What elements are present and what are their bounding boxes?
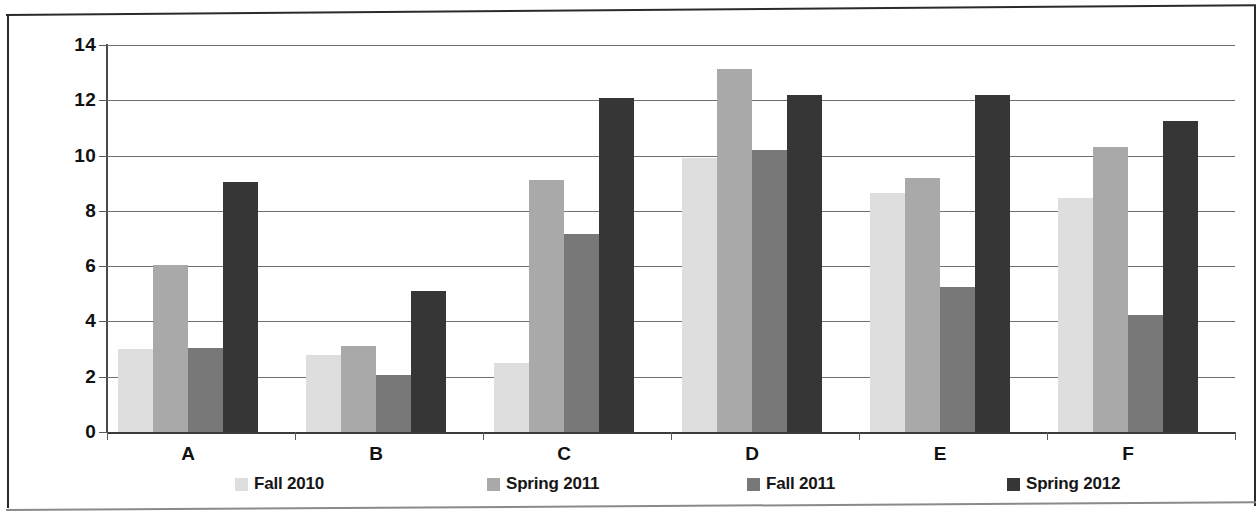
plot-area <box>107 45 1235 432</box>
bar-group-D <box>680 45 825 432</box>
bar-D-fall-2011[interactable] <box>752 150 787 432</box>
x-axis-line <box>107 432 1235 434</box>
bar-F-spring-2012[interactable] <box>1163 121 1198 432</box>
y-tick-label-14: 14 <box>36 34 96 56</box>
bar-B-fall-2011[interactable] <box>376 375 411 432</box>
chart-legend: Fall 2010Spring 2011Fall 2011Spring 2012 <box>107 474 1235 498</box>
legend-item-fall-2010[interactable]: Fall 2010 <box>235 474 324 494</box>
legend-swatch-fall-2010 <box>235 478 248 491</box>
bar-group-A <box>116 45 261 432</box>
bar-E-fall-2010[interactable] <box>870 193 905 432</box>
legend-label-spring-2011: Spring 2011 <box>506 474 599 494</box>
bar-group-E <box>868 45 1013 432</box>
bar-E-spring-2011[interactable] <box>905 178 940 432</box>
x-tick-label-B: B <box>336 443 416 465</box>
legend-swatch-spring-2011 <box>487 478 500 491</box>
bar-C-spring-2011[interactable] <box>529 180 564 432</box>
y-tick-mark-8 <box>99 211 107 212</box>
legend-label-fall-2011: Fall 2011 <box>766 474 835 494</box>
x-tick-label-E: E <box>900 443 980 465</box>
bar-group-C <box>492 45 637 432</box>
x-tick-mark-4 <box>859 432 860 440</box>
legend-item-spring-2011[interactable]: Spring 2011 <box>487 474 599 494</box>
y-tick-label-2: 2 <box>36 366 96 388</box>
x-tick-mark-1 <box>295 432 296 440</box>
bars-layer <box>107 45 1235 432</box>
x-tick-label-A: A <box>148 443 228 465</box>
page-frame-left-border <box>7 16 9 508</box>
bar-A-fall-2011[interactable] <box>188 348 223 432</box>
bar-chart-figure: 02468101214 ABCDEF Fall 2010Spring 2011F… <box>0 0 1256 513</box>
bar-D-spring-2011[interactable] <box>717 69 752 433</box>
bar-B-fall-2010[interactable] <box>306 355 341 432</box>
x-tick-mark-3 <box>671 432 672 440</box>
bar-C-spring-2012[interactable] <box>599 98 634 432</box>
legend-item-spring-2012[interactable]: Spring 2012 <box>1007 474 1120 494</box>
y-tick-label-10: 10 <box>36 145 96 167</box>
legend-swatch-spring-2012 <box>1007 478 1020 491</box>
x-tick-mark-0 <box>107 432 108 440</box>
bar-F-fall-2010[interactable] <box>1058 198 1093 432</box>
bar-A-spring-2011[interactable] <box>153 265 188 432</box>
legend-swatch-fall-2011 <box>747 478 760 491</box>
bar-group-B <box>304 45 449 432</box>
bar-D-spring-2012[interactable] <box>787 95 822 432</box>
bar-A-spring-2012[interactable] <box>223 182 258 432</box>
x-tick-label-D: D <box>712 443 792 465</box>
page-frame-top-border <box>6 4 1256 16</box>
bar-A-fall-2010[interactable] <box>118 349 153 432</box>
bar-E-spring-2012[interactable] <box>975 95 1010 432</box>
bar-E-fall-2011[interactable] <box>940 287 975 432</box>
page-frame-bottom-border <box>6 501 1256 511</box>
x-tick-mark-end <box>1235 432 1236 440</box>
bar-B-spring-2011[interactable] <box>341 346 376 432</box>
x-tick-mark-5 <box>1047 432 1048 440</box>
y-tick-label-6: 6 <box>36 255 96 277</box>
y-tick-mark-14 <box>99 45 107 46</box>
legend-label-fall-2010: Fall 2010 <box>254 474 324 494</box>
y-tick-mark-12 <box>99 100 107 101</box>
bar-B-spring-2012[interactable] <box>411 291 446 432</box>
y-tick-mark-2 <box>99 377 107 378</box>
x-axis-tick-labels: ABCDEF <box>107 443 1235 469</box>
x-tick-label-C: C <box>524 443 604 465</box>
bar-C-fall-2011[interactable] <box>564 234 599 432</box>
bar-F-spring-2011[interactable] <box>1093 147 1128 432</box>
bar-D-fall-2010[interactable] <box>682 158 717 432</box>
legend-label-spring-2012: Spring 2012 <box>1026 474 1120 494</box>
y-tick-mark-0 <box>99 432 107 433</box>
legend-item-fall-2011[interactable]: Fall 2011 <box>747 474 835 494</box>
bar-group-F <box>1056 45 1201 432</box>
bar-F-fall-2011[interactable] <box>1128 315 1163 432</box>
y-tick-label-4: 4 <box>36 310 96 332</box>
y-tick-label-8: 8 <box>36 200 96 222</box>
y-tick-label-0: 0 <box>36 421 96 443</box>
y-tick-mark-10 <box>99 156 107 157</box>
bar-C-fall-2010[interactable] <box>494 363 529 432</box>
x-tick-label-F: F <box>1088 443 1168 465</box>
x-tick-mark-2 <box>483 432 484 440</box>
y-tick-mark-6 <box>99 266 107 267</box>
y-tick-label-12: 12 <box>36 89 96 111</box>
y-axis-tick-labels: 02468101214 <box>30 45 96 432</box>
y-tick-mark-4 <box>99 321 107 322</box>
